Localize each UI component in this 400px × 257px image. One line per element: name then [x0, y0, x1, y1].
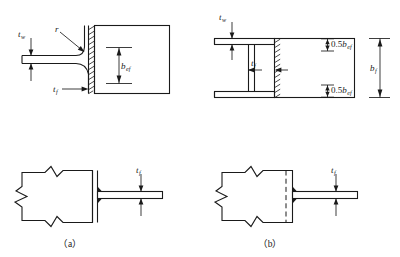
bl-weld-top [98, 187, 103, 193]
tl-label-tw: tw [18, 29, 26, 40]
tr-top-flange [215, 39, 275, 45]
caption-a: （a） [58, 238, 82, 249]
br-weld-bottom [293, 198, 298, 204]
bl-weld-double-line [93, 171, 98, 223]
tl-label-r: r [55, 24, 59, 34]
tl-label-bef: bef [121, 61, 132, 72]
top-right-section: tw tf 0.5bef [215, 12, 391, 98]
br-weld-top [293, 187, 298, 193]
tr-channel-inner-corners [215, 45, 249, 92]
tr-tw-dimension [230, 22, 235, 60]
tl-tw-dimension [29, 38, 34, 81]
top-left-section: tw r tf bef [18, 24, 170, 95]
tr-label-half-bef-upper: 0.5bef [331, 39, 353, 50]
tr-label-tw: tw [219, 12, 227, 23]
bl-member-outline [15, 167, 93, 227]
tl-radius-leader [60, 32, 85, 52]
bottom-left-plan: tf （a） [15, 165, 163, 249]
bl-tf-dimension [139, 174, 144, 216]
bottom-right-plan: tf （b） [215, 165, 358, 249]
engineering-figure: tw r tf bef [0, 0, 400, 257]
tr-label-bf: bf [370, 63, 378, 74]
caption-b: （b） [258, 238, 283, 249]
tl-label-tf: tf [53, 84, 59, 95]
br-tf-dimension [334, 174, 339, 216]
bl-attached-plate [98, 192, 163, 199]
bl-weld-bottom [98, 198, 103, 204]
tr-bottom-flange [215, 92, 275, 98]
br-member-outline [215, 167, 293, 227]
tl-tf-leader [62, 87, 88, 92]
br-attached-plate [293, 192, 358, 199]
tr-label-half-bef-lower: 0.5bef [331, 85, 353, 96]
tl-hatching [89, 26, 94, 93]
tr-channel-web [215, 39, 255, 98]
